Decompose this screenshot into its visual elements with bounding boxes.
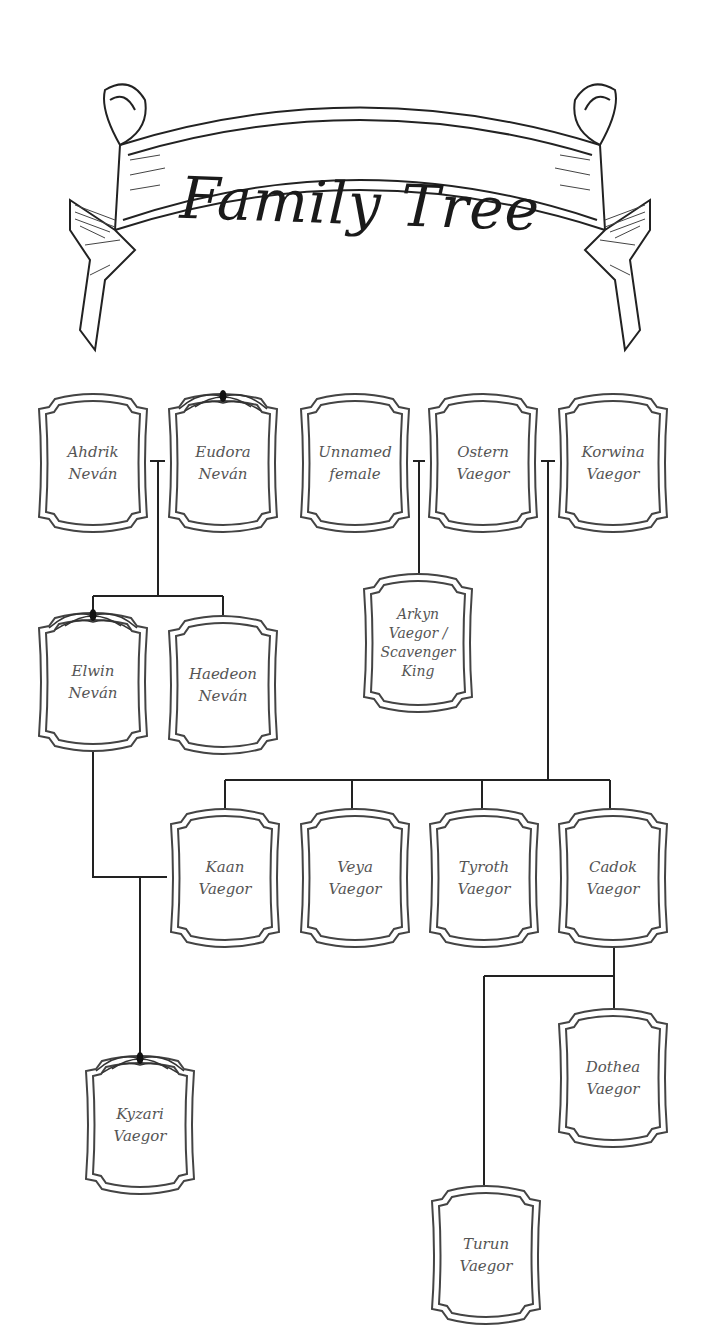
person-name: Unnamed female <box>311 393 399 533</box>
person-name: Haedeon Neván <box>179 615 267 755</box>
person-card-korwina-vaegor[interactable]: Korwina Vaegor <box>555 393 671 533</box>
person-name: Turun Vaegor <box>442 1185 530 1325</box>
person-card-ahdrik-nevan[interactable]: Ahdrik Neván <box>35 393 151 533</box>
person-card-tyroth-vaegor[interactable]: Tyroth Vaegor <box>426 808 542 948</box>
person-card-eudora-nevan[interactable]: Eudora Neván <box>165 393 281 533</box>
person-name: Veya Vaegor <box>311 808 399 948</box>
person-card-ostern-vaegor[interactable]: Ostern Vaegor <box>425 393 541 533</box>
person-name: Dothea Vaegor <box>569 1008 657 1148</box>
person-name: Elwin Neván <box>49 612 137 752</box>
person-name: Ostern Vaegor <box>439 393 527 533</box>
person-card-veya-vaegor[interactable]: Veya Vaegor <box>297 808 413 948</box>
person-name: Kaan Vaegor <box>181 808 269 948</box>
person-name: Tyroth Vaegor <box>440 808 528 948</box>
person-card-arkyn-vaegor[interactable]: Arkyn Vaegor / Scavenger King <box>360 573 476 713</box>
person-card-cadok-vaegor[interactable]: Cadok Vaegor <box>555 808 671 948</box>
person-card-turun-vaegor[interactable]: Turun Vaegor <box>428 1185 544 1325</box>
person-card-dothea-vaegor[interactable]: Dothea Vaegor <box>555 1008 671 1148</box>
person-name: Eudora Neván <box>179 393 267 533</box>
person-card-unnamed-female[interactable]: Unnamed female <box>297 393 413 533</box>
person-name: Kyzari Vaegor <box>96 1055 184 1195</box>
person-card-haedeon-nevan[interactable]: Haedeon Neván <box>165 615 281 755</box>
person-card-elwin-nevan[interactable]: Elwin Neván <box>35 612 151 752</box>
person-card-kyzari-vaegor[interactable]: Kyzari Vaegor <box>82 1055 198 1195</box>
person-name: Korwina Vaegor <box>569 393 657 533</box>
person-card-kaan-vaegor[interactable]: Kaan Vaegor <box>167 808 283 948</box>
person-name: Arkyn Vaegor / Scavenger King <box>374 573 462 713</box>
person-name: Cadok Vaegor <box>569 808 657 948</box>
person-name: Ahdrik Neván <box>49 393 137 533</box>
